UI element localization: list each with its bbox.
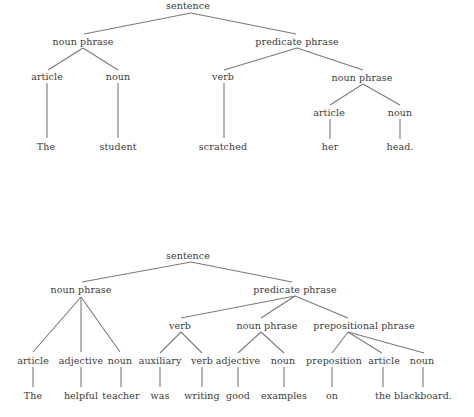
tree-node-w4: her [322,141,339,152]
tree-node-art: article [31,71,63,82]
tree-node-prep: preposition [306,355,362,366]
tree-node-pp: predicate phrase [255,36,338,47]
tree-node-prp: prepositional phrase [313,320,414,331]
tree-node-w3: scratched [199,141,247,152]
tree-edge [238,332,261,353]
tree-node-np: noun phrase [52,36,113,47]
tree-edge [261,332,284,353]
tree-node-art2: article [368,355,400,366]
tree-edge [82,262,191,282]
tree-edge [297,48,363,70]
tree-node-art: article [17,355,49,366]
tree-edge [181,332,202,353]
tree-edge [83,48,118,70]
tree-node-w5: head. [386,141,413,152]
tree-node-adj: adjective [59,355,103,366]
tree-node-art2: article [313,107,345,118]
tree-edge [160,332,181,353]
tree-node-s: sentence [166,250,210,261]
tree-node-verb: verb [191,355,213,366]
tree-node-w4: was [151,390,170,401]
tree-edge [330,84,363,105]
tree-edge [191,13,296,34]
tree-node-np2: noun phrase [331,72,392,83]
tree-node-w2: student [99,141,136,152]
tree-edge [81,297,120,352]
tree-node-pp: predicate phrase [253,284,336,295]
tree-node-verb: verb [212,71,234,82]
tree-node-noun: noun [106,71,130,82]
tree-node-w1: The [24,390,42,401]
tree-edge [224,48,297,70]
tree-edge [363,84,400,105]
tree-node-w2: helpful [64,390,98,401]
tree-node-s: sentence [166,0,210,11]
tree-node-w6: good [226,390,250,401]
tree-edge [191,262,292,282]
tree-edge [84,13,191,34]
tree-node-v: verb [169,320,191,331]
tree-node-w1: The [37,141,55,152]
tree-node-aux: auxiliary [139,355,182,366]
tree-node-noun3: noun [410,355,434,366]
tree-edge [295,296,348,318]
tree-node-noun2: noun [271,355,295,366]
tree-node-w7: examples [261,390,307,401]
tree-node-noun: noun [108,355,132,366]
tree-node-w9: the [375,390,391,401]
tree-node-w5: writing [184,390,219,401]
tree-node-np: noun phrase [50,284,111,295]
syntax-tree-diagrams: sentencenoun phrasepredicate phraseartic… [0,0,474,417]
tree-node-w3: teacher [102,390,139,401]
tree-node-np2: noun phrase [236,320,297,331]
tree-edge [48,48,83,70]
tree-edge [33,297,81,352]
tree-edge [348,332,382,353]
tree-node-noun2: noun [388,107,412,118]
tree-node-w8: on [326,390,338,401]
tree-edge [332,332,348,353]
tree-node-w10: blackboard. [394,390,452,401]
tree-node-adj2: adjective [216,355,260,366]
tree-edge [348,332,424,353]
